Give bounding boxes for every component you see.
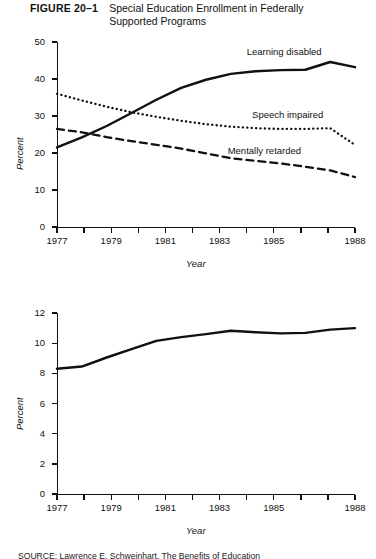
series-line-learning-disabled bbox=[57, 62, 355, 147]
chart2-series-layer bbox=[0, 295, 376, 545]
chart-total-enrollment: Percent Year 024681012197719791981198319… bbox=[0, 295, 376, 545]
figure-page: FIGURE 20–1Special Education Enrollment … bbox=[0, 0, 376, 559]
series-line-total-enrollment-in-federally-supported-programs bbox=[57, 328, 355, 369]
series-label-learning-disabled: Learning disabled bbox=[247, 46, 322, 57]
series-label-speech-impaired: Speech impaired bbox=[252, 109, 323, 120]
figure-number-label: FIGURE 20–1 bbox=[30, 2, 98, 14]
chart-special-education-categories: Percent Year 010203040501977197919811983… bbox=[0, 30, 376, 280]
figure-title-block: FIGURE 20–1Special Education Enrollment … bbox=[30, 2, 370, 28]
series-label-mentally-retarded: Mentally retarded bbox=[228, 145, 301, 156]
chart1-series-layer bbox=[0, 30, 376, 280]
series-line-mentally-retarded bbox=[57, 129, 355, 177]
figure-title-text: Special Education Enrollment in Federall… bbox=[109, 2, 354, 28]
source-note: SOURCE: Lawrence E. Schweinhart, The Ben… bbox=[18, 551, 376, 559]
